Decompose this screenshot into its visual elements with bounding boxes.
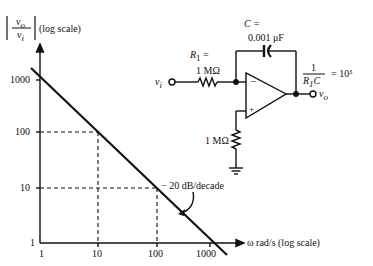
x-tick-1000: 1000 [196,249,216,259]
ground-icon [229,168,243,174]
y-tick-10: 10 [20,183,30,193]
minus-sign: − [250,76,256,87]
r1-label: R1 = [190,50,209,63]
circuit [169,45,316,174]
gain-num: 1 [311,63,316,73]
plus-sign: + [249,105,254,114]
x-tick-1: 1 [39,249,44,259]
x-tick-10: 10 [92,249,102,259]
annotation-arrow [181,192,194,213]
capacitor-label-c: C = [244,19,260,29]
y-label-den: vi [17,30,24,43]
ground-resistor [232,130,240,149]
capacitor-value: 0.001 μF [248,33,284,43]
gain-den: R1C [303,76,320,89]
y-tick-100: 100 [15,127,30,137]
y-tick-1: 1 [30,238,35,248]
ground-resistor-value: 1 MΩ [205,136,229,146]
y-tick-1000: 1000 [10,75,30,85]
r1-value: 1 MΩ [196,66,220,76]
bode-plot-and-integrator-circuit [0,0,373,266]
output-terminal [310,91,316,97]
r1-resistor [198,78,217,86]
gain-value: = 10³ [331,69,352,79]
slope-annotation: − 20 dB/decade [161,181,224,191]
output-label: vo [319,89,328,102]
response-line [31,68,227,255]
y-label-suffix: (log scale) [39,24,81,34]
input-terminal [169,79,175,85]
x-axis-label: ω rad/s (log scale) [247,238,320,248]
dashed-guides [40,132,157,243]
x-tick-100: 100 [148,249,163,259]
input-label: vi [155,77,162,90]
